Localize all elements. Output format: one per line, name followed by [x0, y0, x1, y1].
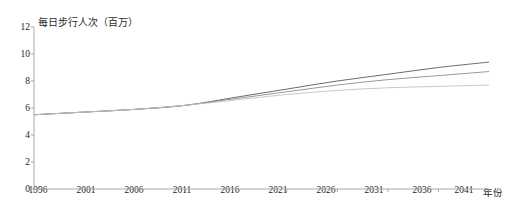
plot-area: [0, 0, 511, 207]
line-chart: 每日步行人次（百万） 12 10 8 6 4 2 0 1996 2001 200…: [0, 0, 511, 207]
series-line-low: [34, 85, 489, 115]
series-lines: [34, 62, 489, 115]
series-line-high: [34, 62, 489, 115]
